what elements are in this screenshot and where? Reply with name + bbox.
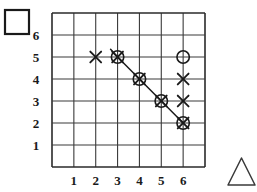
y-axis-tick-label: 5: [29, 51, 43, 64]
x-axis-tick-label: 4: [132, 174, 146, 187]
x-axis-tick-label: 1: [67, 174, 81, 187]
x-axis-tick-label: 2: [89, 174, 103, 187]
x-axis-tick-label: 5: [154, 174, 168, 187]
x-axis-tick-label: 6: [176, 174, 190, 187]
y-axis-tick-label: 1: [29, 139, 43, 152]
square-icon: [5, 10, 29, 34]
x-axis-tick-label: 3: [111, 174, 125, 187]
figure-canvas: 123456123456: [0, 0, 257, 192]
grid-lines: [52, 13, 205, 167]
triangle-icon: [228, 158, 255, 185]
y-axis-tick-label: 3: [29, 95, 43, 108]
y-axis-tick-label: 4: [29, 73, 43, 86]
y-axis-tick-label: 6: [29, 29, 43, 42]
y-axis-tick-label: 2: [29, 117, 43, 130]
